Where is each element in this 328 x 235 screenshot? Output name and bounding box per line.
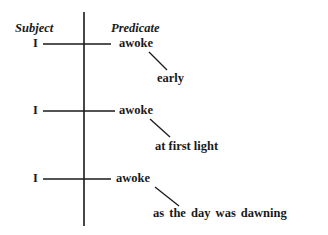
predicate-header: Predicate — [111, 22, 160, 35]
row1-modifier: early — [157, 72, 184, 85]
row1-verb: awoke — [119, 37, 153, 50]
subject-header: Subject — [15, 22, 53, 35]
row1-modifier-slant — [149, 52, 167, 70]
row3-subject: I — [33, 172, 38, 185]
row2-verb: awoke — [119, 104, 153, 117]
row3-modifier-slant — [155, 187, 179, 206]
row2-subject: I — [33, 104, 38, 117]
row3-modifier: as the day was dawning — [153, 207, 287, 220]
row1-subject: I — [33, 37, 38, 50]
row2-modifier-slant — [150, 119, 170, 137]
row3-verb: awoke — [116, 172, 150, 185]
row2-modifier: at first light — [155, 140, 218, 153]
diagram-lines — [0, 0, 328, 235]
